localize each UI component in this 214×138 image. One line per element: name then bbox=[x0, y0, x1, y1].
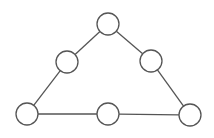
edge-bottom-mid-bottom-right bbox=[119, 114, 179, 115]
edge-right-mid-bottom-right bbox=[157, 70, 183, 106]
node-left-mid bbox=[56, 51, 78, 73]
node-bottom-mid bbox=[97, 103, 119, 125]
edge-left-mid-bottom-left bbox=[34, 71, 61, 106]
edge-top-right-mid bbox=[116, 31, 142, 54]
edges-group bbox=[34, 31, 184, 115]
node-top bbox=[97, 13, 119, 35]
node-bottom-right bbox=[179, 104, 201, 126]
edge-top-left-mid bbox=[75, 31, 100, 54]
node-right-mid bbox=[140, 50, 162, 72]
triangle-graph-diagram bbox=[0, 0, 214, 138]
nodes-group bbox=[16, 13, 201, 126]
node-bottom-left bbox=[16, 103, 38, 125]
